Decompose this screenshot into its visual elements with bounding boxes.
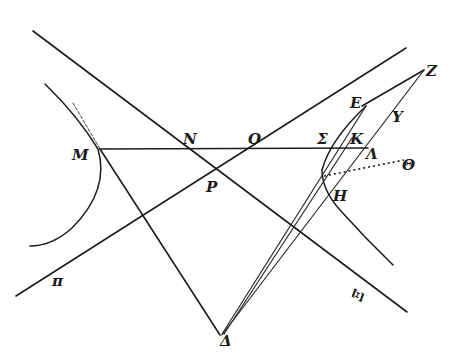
label-n: N xyxy=(182,130,198,148)
label-xi: Ξ xyxy=(348,287,369,304)
geometric-figure: M N O P Σ K Λ E Z Y Θ H Ξ π Δ xyxy=(0,0,461,364)
label-delta: Δ xyxy=(219,332,232,350)
line-delta-e xyxy=(222,106,366,334)
label-theta: Θ xyxy=(402,156,415,174)
label-m: M xyxy=(71,146,89,164)
line-delta-k xyxy=(224,138,352,334)
label-sigma: Σ xyxy=(316,130,328,148)
label-h: H xyxy=(332,187,348,205)
chord-m-lambda xyxy=(100,148,368,149)
label-p: P xyxy=(205,178,218,196)
label-k: K xyxy=(349,130,364,148)
tangent-stub-m xyxy=(73,103,100,149)
label-o: O xyxy=(248,130,261,148)
asymptote-1 xyxy=(33,31,407,312)
left-hyperbola-branch xyxy=(30,84,101,246)
label-y: Y xyxy=(392,108,404,126)
label-lambda: Λ xyxy=(364,145,378,163)
label-pi: π xyxy=(51,272,64,290)
label-z: Z xyxy=(425,62,438,80)
line-e-z xyxy=(362,70,424,106)
label-e: E xyxy=(349,94,362,112)
asymptote-2 xyxy=(16,48,406,296)
